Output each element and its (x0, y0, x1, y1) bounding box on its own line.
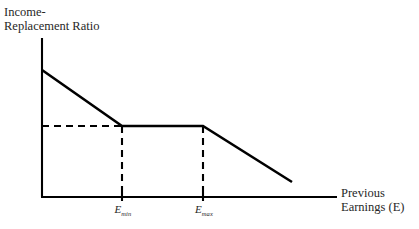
x-tick-label-emax-subscript: max (202, 210, 213, 217)
y-axis-label-line-2: Replacement Ratio (4, 20, 99, 34)
x-axis-label-line-1: Previous (341, 187, 405, 201)
x-axis-label-line-2: Earnings (E) (341, 201, 405, 215)
x-tick-label-emax: Emax (187, 203, 221, 221)
income-replacement-ratio-chart: Income- Replacement Ratio Previous Earni… (0, 0, 419, 229)
x-tick-label-emax-symbol: E (195, 203, 202, 215)
y-axis-label: Income- Replacement Ratio (4, 6, 99, 33)
x-axis-label: Previous Earnings (E) (341, 187, 405, 214)
x-tick-label-emin: Emin (106, 203, 140, 221)
y-axis-label-line-1: Income- (4, 6, 99, 20)
x-tick-label-emin-subscript: min (121, 210, 131, 217)
